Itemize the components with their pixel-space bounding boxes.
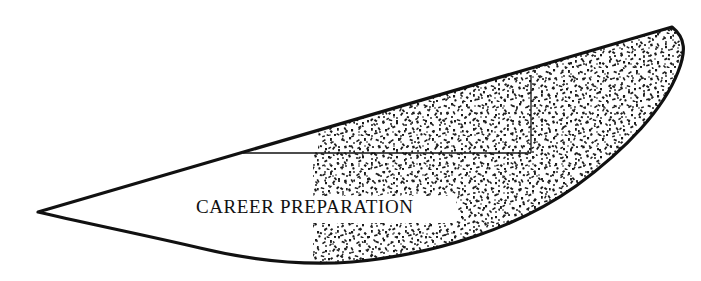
career-preparation-figure: CAREER PREPARATION	[0, 0, 701, 281]
caption-label: CAREER PREPARATION	[196, 196, 414, 217]
diagram-root: CAREER PREPARATION	[0, 0, 701, 281]
